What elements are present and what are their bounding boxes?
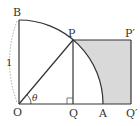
label-B: B [13, 6, 21, 19]
label-P-prime: P′ [125, 27, 135, 40]
label-Q: Q [69, 107, 78, 120]
label-A: A [98, 107, 108, 120]
label-radius: 1 [6, 57, 12, 68]
right-angle-marker [67, 98, 73, 104]
label-theta: θ [32, 93, 38, 103]
angle-arc-theta [27, 95, 31, 104]
geometry-diagram: B P P′ O Q A Q′ θ 1 [0, 0, 140, 126]
segment-OP [19, 40, 73, 104]
quarter-circle-arc [19, 20, 103, 104]
label-O: O [13, 106, 22, 119]
label-Q-prime: Q′ [126, 107, 138, 120]
label-P: P [68, 27, 76, 40]
